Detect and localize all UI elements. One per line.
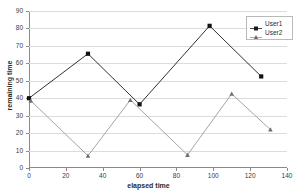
gridline-horizontal [29, 46, 287, 47]
gridline-horizontal [29, 98, 287, 99]
y-tick-label: 90 [1, 7, 23, 14]
y-tick-mark [26, 28, 29, 29]
legend-marker-square-icon [249, 19, 263, 28]
y-tick-mark [26, 151, 29, 152]
line-chart: 0102030405060708090 020406080100120140 r… [0, 0, 297, 194]
legend-item-user1[interactable]: User1 [249, 19, 290, 28]
legend-item-user2[interactable]: User2 [249, 28, 290, 37]
y-tick-label: 0 [1, 164, 23, 171]
y-tick-mark [26, 46, 29, 47]
x-tick-label: 120 [240, 172, 260, 179]
x-tick-mark [213, 168, 214, 171]
legend-label-user2: User2 [265, 28, 282, 37]
y-tick-mark [26, 116, 29, 117]
x-tick-label: 60 [130, 172, 150, 179]
x-tick-label: 140 [277, 172, 297, 179]
x-tick-mark [66, 168, 67, 171]
x-tick-label: 0 [19, 172, 39, 179]
gridline-horizontal [29, 63, 287, 64]
x-tick-label: 80 [166, 172, 186, 179]
x-tick-mark [176, 168, 177, 171]
y-tick-label: 80 [1, 24, 23, 31]
x-axis-title: elapsed time [0, 182, 297, 189]
x-tick-mark [140, 168, 141, 171]
y-tick-mark [26, 63, 29, 64]
y-tick-mark [26, 133, 29, 134]
gridline-horizontal [29, 116, 287, 117]
legend-marker-triangle-icon [249, 28, 263, 37]
legend: User1 User2 [246, 16, 293, 40]
gridline-horizontal [29, 81, 287, 82]
x-tick-mark [250, 168, 251, 171]
y-tick-label: 10 [1, 147, 23, 154]
x-tick-mark [103, 168, 104, 171]
x-tick-label: 40 [93, 172, 113, 179]
x-tick-mark [29, 168, 30, 171]
x-tick-mark [287, 168, 288, 171]
x-tick-label: 100 [203, 172, 223, 179]
gridline-horizontal [29, 151, 287, 152]
gridline-horizontal [29, 133, 287, 134]
y-tick-mark [26, 11, 29, 12]
y-tick-mark [26, 98, 29, 99]
y-tick-mark [26, 81, 29, 82]
x-tick-label: 20 [56, 172, 76, 179]
legend-label-user1: User1 [265, 19, 282, 28]
gridline-horizontal [29, 11, 287, 12]
y-axis-title: remaining time [6, 41, 13, 131]
